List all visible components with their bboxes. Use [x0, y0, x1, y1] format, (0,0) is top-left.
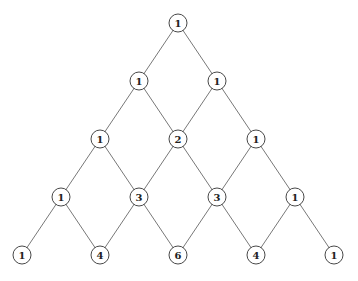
node-value: 1: [58, 192, 65, 203]
edge: [217, 139, 256, 197]
node-r3-c3: 1: [286, 188, 304, 206]
edge: [100, 197, 139, 255]
edge: [178, 23, 217, 81]
edge: [256, 197, 295, 255]
pascal-triangle-diagram: 111121133114641: [0, 0, 358, 281]
edge: [217, 197, 256, 255]
edge: [217, 81, 256, 139]
edge: [295, 197, 334, 255]
nodes: 111121133114641: [13, 14, 343, 264]
node-r2-c1: 2: [169, 130, 187, 148]
node-value: 1: [19, 250, 26, 261]
edge: [61, 197, 100, 255]
node-value: 4: [253, 250, 260, 261]
node-value: 1: [214, 76, 221, 87]
edge: [139, 197, 178, 255]
edge: [61, 139, 100, 197]
node-value: 1: [292, 192, 299, 203]
node-r4-c1: 4: [91, 246, 109, 264]
node-r4-c2: 6: [169, 246, 187, 264]
edge: [22, 197, 61, 255]
node-value: 1: [136, 76, 143, 87]
edge: [139, 139, 178, 197]
node-r3-c1: 3: [130, 188, 148, 206]
node-r0-c0: 1: [169, 14, 187, 32]
edge: [256, 139, 295, 197]
node-r3-c0: 1: [52, 188, 70, 206]
node-r2-c2: 1: [247, 130, 265, 148]
node-r4-c4: 1: [325, 246, 343, 264]
node-value: 4: [97, 250, 104, 261]
node-r4-c0: 1: [13, 246, 31, 264]
edge: [178, 197, 217, 255]
edge: [178, 139, 217, 197]
edge: [178, 81, 217, 139]
node-value: 2: [175, 134, 182, 145]
node-value: 3: [214, 192, 221, 203]
node-r1-c0: 1: [130, 72, 148, 90]
node-value: 1: [331, 250, 338, 261]
node-r1-c1: 1: [208, 72, 226, 90]
node-r3-c2: 3: [208, 188, 226, 206]
node-value: 1: [253, 134, 260, 145]
edge: [139, 81, 178, 139]
edge: [139, 23, 178, 81]
node-value: 6: [175, 250, 182, 261]
node-value: 1: [175, 18, 182, 29]
edge: [100, 81, 139, 139]
node-value: 1: [97, 134, 104, 145]
node-r4-c3: 4: [247, 246, 265, 264]
node-value: 3: [136, 192, 143, 203]
node-r2-c0: 1: [91, 130, 109, 148]
edge: [100, 139, 139, 197]
